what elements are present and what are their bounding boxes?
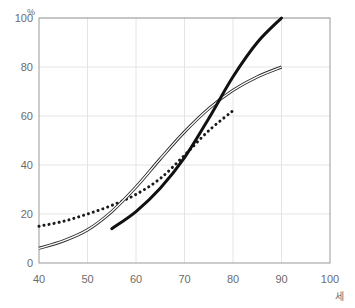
y-tick-label: 60: [21, 110, 33, 122]
y-tick-label: 20: [21, 208, 33, 220]
x-tick-label: 100: [321, 273, 339, 285]
x-tick-label: 90: [275, 273, 287, 285]
chart-container: 020406080100 405060708090100 % 세: [0, 0, 355, 308]
x-tick-label: 50: [81, 273, 93, 285]
x-axis-unit-label: 세: [335, 291, 344, 302]
x-tick-label: 60: [130, 273, 142, 285]
x-tick-label: 40: [33, 273, 45, 285]
x-tick-label: 70: [178, 273, 190, 285]
y-axis-ticks: 020406080100: [15, 12, 33, 269]
y-tick-label: 40: [21, 159, 33, 171]
y-axis-unit-label: %: [27, 7, 35, 17]
x-axis-ticks: 405060708090100: [33, 273, 339, 285]
line-chart: 020406080100 405060708090100 % 세: [0, 0, 355, 308]
x-tick-label: 80: [227, 273, 239, 285]
y-tick-label: 0: [27, 257, 33, 269]
y-tick-label: 80: [21, 61, 33, 73]
